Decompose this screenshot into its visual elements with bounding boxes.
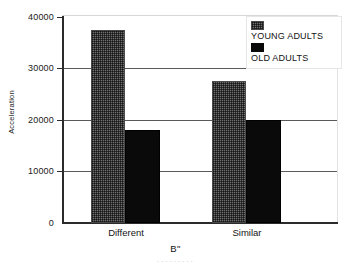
legend: YOUNG ADULTS OLD ADULTS [246, 16, 342, 69]
y-tick-label-20000: 20000 [28, 115, 54, 125]
y-tick-mark-10000 [57, 171, 63, 172]
y-tick-label-40000: 40000 [28, 12, 54, 22]
legend-label-young-adults: YOUNG ADULTS [251, 31, 338, 42]
old-adults-swatch-icon [251, 43, 264, 52]
y-tick-label-30000: 30000 [28, 63, 54, 73]
x-tick-label-different: Different [108, 227, 144, 238]
y-axis-title: Acceleration [7, 90, 16, 134]
bar-young-adults-similar [212, 81, 246, 223]
x-tick-label-similar: Similar [232, 227, 261, 238]
y-tick-mark-40000 [57, 17, 63, 18]
legend-entry-old-adults: OLD ADULTS [251, 43, 338, 64]
y-tick-mark-20000 [57, 120, 63, 121]
x-axis-title: B" [0, 243, 351, 254]
bar-old-adults-different [125, 130, 160, 223]
legend-entry-young-adults: YOUNG ADULTS [251, 21, 338, 42]
legend-label-old-adults: OLD ADULTS [251, 53, 338, 64]
scan-artifact-text: ········· [0, 260, 351, 267]
young-adults-swatch-icon [251, 21, 264, 30]
bar-old-adults-similar [246, 120, 281, 223]
y-tick-mark-30000 [57, 68, 63, 69]
y-tick-label-0: 0 [49, 218, 54, 228]
bar-young-adults-different [91, 30, 125, 223]
bar-chart-figure: 40000 30000 20000 10000 0 Acceleration D… [0, 0, 351, 267]
y-tick-label-10000: 10000 [28, 166, 54, 176]
scan-artifact-label: ········· [157, 260, 195, 266]
